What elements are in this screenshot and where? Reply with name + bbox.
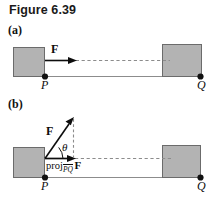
panel-b-point-q-label: Q [197,179,206,194]
panel-b-point-p-label: P [41,179,48,194]
panel-a-point-p-label: P [41,78,48,93]
projection-vector-f: F [74,159,81,171]
panel-b-graphics [13,117,204,181]
projection-word: proj [46,160,63,171]
panel-b-force-arrow-head [66,117,75,125]
panel-a-force-label: F [51,42,58,57]
panel-a-right-block [163,45,202,77]
panel-b-projection-label: projPQF [46,160,81,172]
panel-b-angle-label: θ [62,141,67,153]
panel-b-right-block [163,146,201,178]
panel-a-point-q-label: Q [197,78,206,93]
figure-drawing [0,0,216,212]
panel-a-force-arrow-head [68,57,77,64]
panel-b-left-block [14,148,45,178]
projection-subscript: PQ [63,164,73,174]
panel-a-graphics [13,45,204,80]
figure-container: Figure 6.39 (a) (b) [0,0,216,212]
panel-b-force-label: F [46,124,53,139]
panel-a-left-block [14,48,45,77]
